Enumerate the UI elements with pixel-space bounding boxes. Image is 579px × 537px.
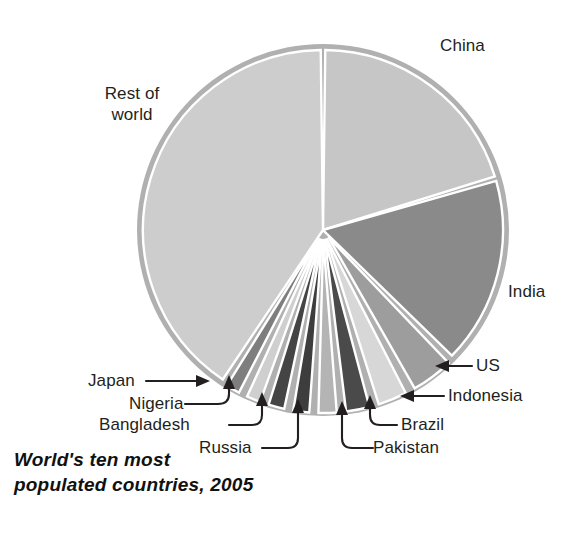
pie-chart-figure: China India US Indonesia Brazil Pakistan… <box>0 0 579 537</box>
arrowhead-japan <box>196 375 210 387</box>
slice-label-china: China <box>440 36 485 57</box>
slice-label-japan: Japan <box>88 371 135 392</box>
slice-label-us: US <box>476 356 500 377</box>
figure-caption: World's ten most populated countries, 20… <box>14 447 264 497</box>
slice-label-brazil: Brazil <box>401 415 444 436</box>
slice-label-nigeria: Nigeria <box>129 394 184 415</box>
leader-pakistan <box>342 414 373 448</box>
slice-label-indonesia: Indonesia <box>448 386 523 407</box>
slice-label-india: India <box>508 282 545 303</box>
caption-line-1: World's ten most <box>14 449 170 470</box>
caption-line-2: populated countries, 2005 <box>14 474 253 495</box>
leader-bangladesh <box>229 405 262 425</box>
leader-nigeria <box>185 388 229 404</box>
rest-of-world-line1: Rest of <box>105 84 160 103</box>
rest-of-world-line2: world <box>111 105 152 124</box>
leader-brazil <box>370 408 397 425</box>
slice-label-rest-of-world: Rest of world <box>86 84 178 125</box>
leader-russia <box>262 412 298 448</box>
slice-label-pakistan: Pakistan <box>373 438 439 459</box>
slice-label-bangladesh: Bangladesh <box>99 415 190 436</box>
